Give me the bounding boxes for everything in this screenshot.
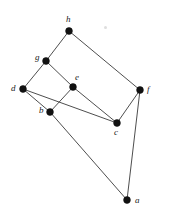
graph-edge-e-c [73,87,117,123]
vertex-label-a: a [135,196,140,205]
graph-edge-d-c [23,89,117,123]
graph-vertex-h [66,28,73,35]
vertex-label-c: c [114,128,118,137]
vertex-label-b: b [39,106,44,115]
graph-canvas [0,0,169,217]
graph-vertex-g [43,58,50,65]
graph-vertex-b [47,109,54,116]
graph-edge-h-f [69,31,140,90]
graph-vertex-d [20,86,27,93]
graph-edge-g-d [23,61,46,89]
graph-vertex-c [114,120,121,127]
graph-edge-h-g [46,31,69,61]
vertex-label-d: d [11,84,16,93]
graph-edge-g-e [46,61,73,87]
paper-speck [104,26,107,29]
vertex-label-e: e [75,73,79,82]
graph-vertex-a [124,197,131,204]
graph-edge-d-b [23,89,50,112]
vertex-label-g: g [35,53,40,62]
graph-vertex-e [70,84,77,91]
vertex-label-f: f [147,85,150,94]
vertex-label-h: h [66,15,71,24]
graph-figure: abcdefgh [0,0,169,217]
graph-edge-e-b [50,87,73,112]
graph-vertex-f [137,87,144,94]
edge-layer [23,31,140,200]
